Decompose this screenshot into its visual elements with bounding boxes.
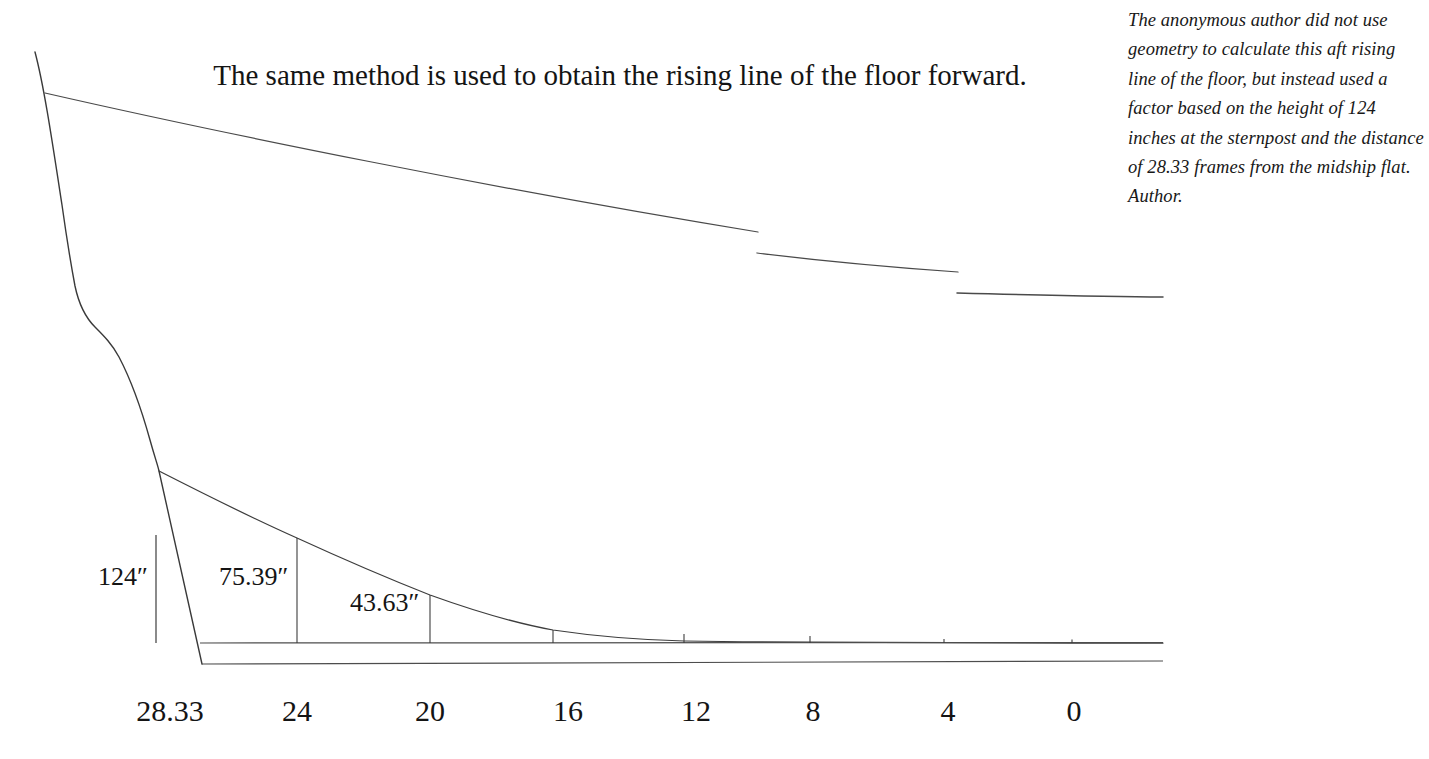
dimension-label-75-39: 75.39″ <box>219 562 288 592</box>
axis-tick-label-8: 8 <box>806 694 821 728</box>
upper-deck-line-segment-1 <box>45 93 758 232</box>
figure-caption: The anonymous author did not use geometr… <box>1128 6 1428 212</box>
dimension-label-124: 124″ <box>98 562 148 592</box>
axis-tick-label-20: 20 <box>415 694 445 728</box>
upper-deck-line-segment-3 <box>957 293 1163 297</box>
figure-title: The same method is used to obtain the ri… <box>150 57 1090 93</box>
ship-lines-figure: The same method is used to obtain the ri… <box>0 0 1429 759</box>
axis-tick-label-0: 0 <box>1067 694 1082 728</box>
axis-tick-label-28-33: 28.33 <box>136 694 204 728</box>
axis-tick-label-16: 16 <box>553 694 583 728</box>
rising-line-of-floor <box>159 471 1163 643</box>
lower-baseline <box>202 661 1163 664</box>
upper-deck-line-segment-2 <box>757 253 958 272</box>
axis-tick-label-24: 24 <box>282 694 312 728</box>
dimension-label-43-63: 43.63″ <box>350 588 419 618</box>
axis-tick-label-12: 12 <box>681 694 711 728</box>
upper-baseline <box>200 643 1163 644</box>
axis-tick-label-4: 4 <box>941 694 956 728</box>
